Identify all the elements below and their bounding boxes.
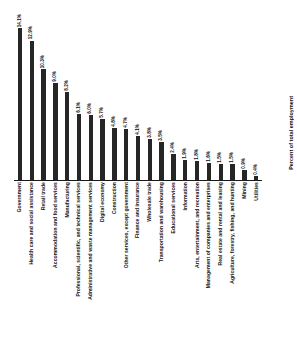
bar-rect <box>136 136 140 180</box>
bar-value-label: 0.4% <box>254 164 259 175</box>
category-label-slot: Information <box>179 182 191 210</box>
bar-value-label: 4.8% <box>112 116 117 127</box>
category-label: Manufacturing <box>65 182 70 218</box>
category-label: Professional, scientific, and technical … <box>76 182 81 297</box>
category-label-slot: Accommodation and food services <box>49 182 61 268</box>
plot-area: 14.1%12.9%10.3%9.0%8.2%6.1%6.0%5.7%4.8%4… <box>14 8 262 180</box>
bar-value-label: 6.1% <box>77 102 82 113</box>
bar-item: 4.7% <box>120 8 132 180</box>
bar-item: 6.0% <box>85 8 97 180</box>
bar-rect <box>159 142 163 180</box>
bar-value-label: 8.2% <box>65 80 70 91</box>
bar-item: 1.9% <box>179 8 191 180</box>
bar-rect <box>148 139 152 180</box>
category-label: Health care and social assistance <box>29 182 34 265</box>
category-label: Retail trade <box>41 182 46 210</box>
bar-item: 8.2% <box>61 8 73 180</box>
bar-value-label: 9.0% <box>53 71 58 82</box>
axis-baseline <box>14 180 262 181</box>
bar-rect <box>41 69 45 180</box>
bar-value-label: 1.8% <box>195 149 200 160</box>
bar-item: 12.9% <box>26 8 38 180</box>
category-label-slot: Retail trade <box>38 182 50 210</box>
category-label-slot: Construction <box>109 182 121 214</box>
bar-item: 9.0% <box>49 8 61 180</box>
category-label-slot: Arts, entertainment, and recreation <box>191 182 203 268</box>
bar-item: 0.9% <box>238 8 250 180</box>
category-label-slot: Utilities <box>250 182 262 201</box>
category-label: Administrative and waste management serv… <box>88 182 93 300</box>
bar-item: 6.1% <box>73 8 85 180</box>
bar-item: 1.5% <box>227 8 239 180</box>
category-label: Government <box>17 182 22 212</box>
bar-item: 4.1% <box>132 8 144 180</box>
category-label: Mining <box>242 182 247 199</box>
bar-item: 3.5% <box>156 8 168 180</box>
bar-item: 0.4% <box>250 8 262 180</box>
category-label-slot: Government <box>14 182 26 212</box>
bar-item: 3.8% <box>144 8 156 180</box>
category-label-slot: Other services, except government <box>120 182 132 268</box>
bar-item: 1.5% <box>215 8 227 180</box>
bar-value-label: 10.3% <box>41 55 46 68</box>
category-label: Educational services <box>171 182 176 233</box>
category-label-slot: Administrative and waste management serv… <box>85 182 97 300</box>
category-label-slot: Digital economy <box>97 182 109 222</box>
bar-rect <box>18 28 22 180</box>
bar-rect <box>53 83 57 180</box>
category-label-slot: Educational services <box>168 182 180 233</box>
bar-item: 5.7% <box>97 8 109 180</box>
y-axis-title: Percent of total employment <box>288 96 294 170</box>
bar-value-label: 1.6% <box>207 151 212 162</box>
category-label-slot: Manufacturing <box>61 182 73 218</box>
bar-item: 4.8% <box>109 8 121 180</box>
category-axis-labels: GovernmentHealth care and social assista… <box>14 182 262 352</box>
category-label-slot: Agriculture, forestry, fishing, and hunt… <box>227 182 239 284</box>
bar-value-label: 0.9% <box>242 158 247 169</box>
bar-rect <box>89 115 93 180</box>
category-label: Accommodation and food services <box>53 182 58 268</box>
bar-chart: 14.1%12.9%10.3%9.0%8.2%6.1%6.0%5.7%4.8%4… <box>0 0 297 358</box>
category-label-slot: Wholesale trade <box>144 182 156 222</box>
category-label: Utilities <box>254 182 259 201</box>
bar-rect <box>171 154 175 180</box>
bar-item: 14.1% <box>14 8 26 180</box>
bar-value-label: 1.5% <box>218 152 223 163</box>
category-label: Transportation and warehousing <box>159 182 164 262</box>
category-label-slot: Finance and insurance <box>132 182 144 238</box>
category-label: Information <box>183 182 188 210</box>
bar-value-label: 12.9% <box>29 26 34 39</box>
bar-rect <box>183 160 187 180</box>
bar-rect <box>100 119 104 180</box>
bar-item: 1.8% <box>191 8 203 180</box>
bar-rect <box>219 164 223 180</box>
category-label: Other services, except government <box>124 182 129 268</box>
category-label-slot: Health care and social assistance <box>26 182 38 265</box>
bar-item: 2.4% <box>168 8 180 180</box>
bar-rect <box>195 161 199 180</box>
category-label-slot: Real estate and rental and leasing <box>215 182 227 265</box>
category-label: Agriculture, forestry, fishing, and hunt… <box>230 182 235 284</box>
bar-value-label: 5.7% <box>100 107 105 118</box>
bar-value-label: 6.0% <box>88 103 93 114</box>
bar-rect <box>124 129 128 180</box>
bar-value-label: 4.7% <box>124 117 129 128</box>
bar-value-label: 14.1% <box>18 14 23 27</box>
bar-value-label: 1.9% <box>183 148 188 159</box>
bar-value-label: 2.4% <box>171 142 176 153</box>
bar-rect <box>242 170 246 180</box>
bar-value-label: 3.8% <box>148 127 153 138</box>
bar-rect <box>77 114 81 180</box>
bar-item: 1.6% <box>203 8 215 180</box>
bar-rect <box>207 163 211 180</box>
bar-rect <box>65 92 69 180</box>
bar-value-label: 3.5% <box>159 130 164 141</box>
bar-rect <box>112 128 116 180</box>
bar-rect <box>30 41 34 180</box>
bar-value-label: 1.5% <box>230 152 235 163</box>
bar-value-label: 4.1% <box>136 124 141 135</box>
bar-item: 10.3% <box>38 8 50 180</box>
category-label: Real estate and rental and leasing <box>218 182 223 265</box>
category-label: Digital economy <box>100 182 105 222</box>
category-label: Management of companies and enterprises <box>206 182 211 288</box>
